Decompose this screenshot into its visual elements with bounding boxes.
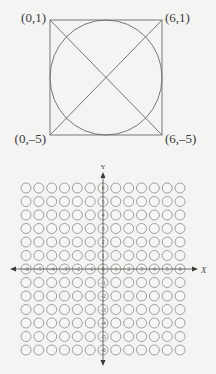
y-axis-tick-label: 6: [102, 185, 105, 191]
grid-bubble: [175, 345, 185, 355]
x-axis-tick-label: 5: [166, 266, 169, 272]
y-axis-label: Y: [100, 163, 105, 171]
grid-bubble: [162, 183, 172, 193]
grid-bubble: [34, 197, 44, 207]
grid-bubble: [111, 224, 121, 234]
square-figure: (0,1) (6,1) (0,–5) (6,–5): [15, 10, 197, 146]
y-axis-down-arrow-icon: [101, 360, 106, 366]
grid-bubble: [47, 305, 57, 315]
grid-bubble: [85, 345, 95, 355]
grid-bubble: [34, 237, 44, 247]
grid-bubble: [60, 237, 70, 247]
grid-bubble: [47, 183, 57, 193]
grid-bubble: [85, 291, 95, 301]
grid-bubble: [85, 318, 95, 328]
grid-bubble: [149, 210, 159, 220]
grid-bubble: [72, 251, 82, 261]
grid-bubble: [60, 197, 70, 207]
grid-bubble: [72, 291, 82, 301]
grid-bubble: [137, 318, 147, 328]
grid-bubble: [47, 332, 57, 342]
grid-bubble: [72, 332, 82, 342]
grid-bubble: [124, 278, 134, 288]
grid-bubble: [21, 305, 31, 315]
y-axis-tick-label: –3: [99, 307, 106, 313]
grid-bubble: [124, 318, 134, 328]
grid-bubble: [124, 251, 134, 261]
grid-bubble: [21, 332, 31, 342]
grid-bubble: [137, 237, 147, 247]
grid-bubble: [175, 332, 185, 342]
grid-bubble: [72, 278, 82, 288]
grid-bubble: [111, 318, 121, 328]
grid-bubble: [47, 291, 57, 301]
grid-bubble: [85, 210, 95, 220]
grid-bubble: [21, 237, 31, 247]
grid-bubble: [111, 197, 121, 207]
grid-bubble: [60, 318, 70, 328]
grid-bubble: [85, 305, 95, 315]
grid-bubble: [34, 210, 44, 220]
grid-bubble: [34, 305, 44, 315]
x-axis-tick-label: –5: [35, 266, 42, 272]
grid-bubble: [149, 224, 159, 234]
grid-bubble: [60, 332, 70, 342]
grid-bubble: [137, 197, 147, 207]
figure-canvas: (0,1) (6,1) (0,–5) (6,–5) X Y 654321–6–5…: [0, 0, 216, 374]
grid-bubble: [111, 305, 121, 315]
grid-bubble: [85, 332, 95, 342]
x-axis-tick-label: –2: [74, 266, 81, 272]
grid-bubble: [149, 318, 159, 328]
grid-bubble: [111, 210, 121, 220]
y-axis-tick-label: 2: [102, 239, 105, 245]
grid-bubble: [124, 237, 134, 247]
grid-bubble: [124, 291, 134, 301]
grid-bubble: [21, 251, 31, 261]
grid-bubble: [124, 210, 134, 220]
grid-bubble: [124, 345, 134, 355]
grid-bubble: [137, 291, 147, 301]
grid-bubble: [60, 345, 70, 355]
grid-bubble: [162, 224, 172, 234]
grid-bubble: [137, 332, 147, 342]
x-axis-tick-label: –4: [48, 266, 55, 272]
x-axis-label: X: [200, 265, 207, 275]
grid-bubble: [21, 197, 31, 207]
grid-bubble: [60, 305, 70, 315]
x-axis-tick-label: –6: [22, 266, 29, 272]
grid-bubble: [111, 237, 121, 247]
grid-bubble: [72, 183, 82, 193]
grid-bubble: [60, 224, 70, 234]
grid-bubble: [162, 237, 172, 247]
y-axis-tick-label: 1: [102, 253, 105, 259]
grid-bubble: [149, 332, 159, 342]
grid-bubble: [137, 345, 147, 355]
y-axis-tick-label: –6: [99, 347, 106, 353]
x-axis-tick-label: 2: [127, 266, 130, 272]
grid-bubble: [21, 345, 31, 355]
grid-bubble: [175, 197, 185, 207]
y-axis-up-arrow-icon: [101, 172, 106, 178]
grid-bubble: [85, 251, 95, 261]
grid-bubble: [21, 210, 31, 220]
corner-label-top-right: (6,1): [165, 10, 190, 25]
grid-bubble: [85, 197, 95, 207]
grid-bubble: [34, 251, 44, 261]
grid-bubble: [34, 318, 44, 328]
grid-bubble: [34, 183, 44, 193]
grid-bubble: [175, 278, 185, 288]
y-axis-tick-label: –1: [99, 280, 106, 286]
grid-bubble: [175, 291, 185, 301]
grid-bubble: [124, 197, 134, 207]
x-axis-tick-label: 1: [114, 266, 117, 272]
grid-bubble: [72, 345, 82, 355]
grid-bubble: [72, 210, 82, 220]
grid-bubble: [162, 210, 172, 220]
y-axis-tick-label: 4: [102, 212, 105, 218]
x-axis-tick-label: 6: [179, 266, 182, 272]
grid-bubble: [34, 278, 44, 288]
figure-container: (0,1) (6,1) (0,–5) (6,–5) X Y 654321–6–5…: [0, 0, 216, 374]
grid-bubble: [137, 251, 147, 261]
grid-bubble: [72, 197, 82, 207]
grid-bubble: [21, 183, 31, 193]
